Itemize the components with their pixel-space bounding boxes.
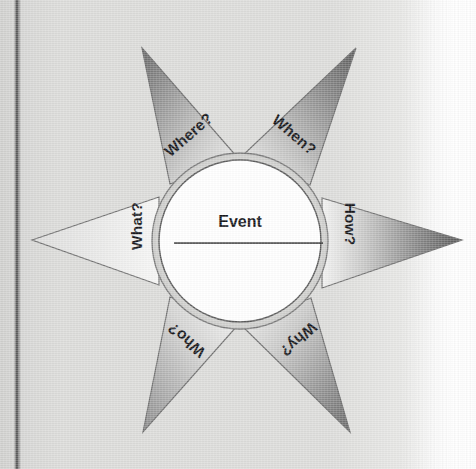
center-label: Event [170, 213, 310, 231]
ray-label-what: What? [128, 202, 146, 250]
ray-label-how: How? [341, 203, 359, 246]
five-w-one-h-star-diagram [0, 0, 476, 469]
center-circle [159, 160, 321, 322]
scanned-book-page: Event Where? When? How? Why? Who? What? [0, 0, 476, 469]
